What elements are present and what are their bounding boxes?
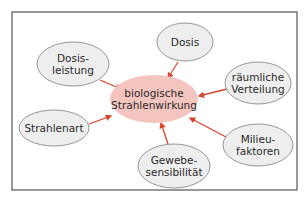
node-dosisleistung: Dosis-leistung bbox=[37, 42, 109, 86]
center-node-biologische-strahlenwirkung: biologischeStrahlenwirkung bbox=[110, 75, 198, 123]
node-dosisleistung-label: leistung bbox=[52, 64, 94, 76]
node-raeumliche-verteilung-label: Verteilung bbox=[231, 83, 285, 95]
node-dosis-label: Dosis bbox=[171, 36, 199, 48]
node-raeumliche-verteilung-label: räumliche bbox=[232, 71, 284, 83]
node-gewebesensibilitaet: Gewebe-sensibilität bbox=[138, 144, 210, 188]
node-milieufaktoren-label: Milieu- bbox=[241, 133, 276, 145]
node-milieufaktoren: Milieu-faktoren bbox=[223, 124, 293, 166]
node-strahlenart-label: Strahlenart bbox=[24, 122, 83, 134]
node-raeumliche-verteilung: räumlicheVerteilung bbox=[225, 62, 291, 104]
node-dosisleistung-label: Dosis- bbox=[57, 52, 89, 64]
center-node-biologische-strahlenwirkung-label: biologische bbox=[124, 87, 183, 99]
node-gewebesensibilitaet-label: Gewebe- bbox=[151, 154, 198, 166]
center-node: biologischeStrahlenwirkung bbox=[110, 75, 198, 123]
node-milieufaktoren-label: faktoren bbox=[236, 145, 280, 157]
node-strahlenart: Strahlenart bbox=[19, 110, 89, 146]
node-gewebesensibilitaet-label: sensibilität bbox=[145, 166, 202, 178]
radiation-effects-diagram: biologischeStrahlenwirkung DosisDosis-le… bbox=[0, 0, 308, 198]
node-dosis: Dosis bbox=[157, 23, 213, 61]
center-node-biologische-strahlenwirkung-label: Strahlenwirkung bbox=[111, 99, 197, 111]
